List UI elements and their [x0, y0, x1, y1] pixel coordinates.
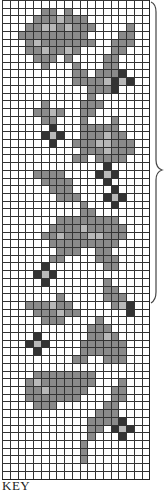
- grid-cell: [18, 23, 26, 31]
- grid-cell: [72, 332, 80, 340]
- grid-cell: [10, 394, 18, 402]
- grid-cell: [64, 8, 72, 16]
- grid-cell: [87, 224, 95, 232]
- grid-cell: [80, 455, 88, 463]
- grid-cell: [56, 425, 64, 433]
- grid-cell: [111, 178, 119, 186]
- grid-cell: [118, 409, 126, 417]
- grid-cell: [2, 262, 10, 270]
- grid-cell: [56, 23, 64, 31]
- grid-cell: [64, 401, 72, 409]
- grid-cell: [25, 108, 33, 116]
- grid-cell: [118, 100, 126, 108]
- grid-cell: [56, 39, 64, 47]
- grid-cell: [64, 463, 72, 471]
- grid-cell: [118, 239, 126, 247]
- grid-cell: [118, 301, 126, 309]
- grid-cell: [25, 262, 33, 270]
- grid-cell: [64, 216, 72, 224]
- grid-cell: [64, 324, 72, 332]
- grid-cell: [142, 15, 150, 23]
- grid-cell: [56, 131, 64, 139]
- grid-cell: [103, 347, 111, 355]
- grid-cell: [111, 100, 119, 108]
- grid-cell: [49, 131, 57, 139]
- grid-cell: [33, 278, 41, 286]
- grid-cell: [111, 108, 119, 116]
- grid-cell: [111, 162, 119, 170]
- grid-cell: [111, 378, 119, 386]
- grid-cell: [103, 401, 111, 409]
- grid-cell: [87, 0, 95, 8]
- grid-cell: [103, 417, 111, 425]
- grid-cell: [10, 178, 18, 186]
- grid-cell: [87, 355, 95, 363]
- grid-cell: [49, 15, 57, 23]
- grid-cell: [18, 355, 26, 363]
- grid-cell: [134, 301, 142, 309]
- grid-cell: [80, 116, 88, 124]
- grid-cell: [103, 432, 111, 440]
- grid-cell: [126, 216, 134, 224]
- grid-cell: [72, 201, 80, 209]
- grid-cell: [41, 471, 49, 479]
- grid-cell: [72, 471, 80, 479]
- grid-cell: [111, 23, 119, 31]
- grid-cell: [33, 224, 41, 232]
- grid-cell: [80, 39, 88, 47]
- grid-cell: [18, 270, 26, 278]
- grid-cell: [80, 216, 88, 224]
- grid-cell: [56, 239, 64, 247]
- grid-cell: [95, 455, 103, 463]
- grid-cell: [134, 46, 142, 54]
- grid-cell: [64, 193, 72, 201]
- grid-cell: [118, 262, 126, 270]
- grid-cell: [111, 471, 119, 479]
- grid-cell: [25, 324, 33, 332]
- grid-cell: [103, 15, 111, 23]
- grid-cell: [18, 216, 26, 224]
- grid-cell: [2, 363, 10, 371]
- grid-cell: [2, 247, 10, 255]
- grid-cell: [2, 309, 10, 317]
- grid-cell: [33, 247, 41, 255]
- grid-cell: [49, 124, 57, 132]
- grid-cell: [126, 417, 134, 425]
- grid-cell: [2, 93, 10, 101]
- grid-cell: [18, 432, 26, 440]
- grid-cell: [111, 232, 119, 240]
- grid-cell: [134, 255, 142, 263]
- grid-cell: [49, 93, 57, 101]
- grid-cell: [25, 154, 33, 162]
- grid-cell: [49, 8, 57, 16]
- grid-cell: [64, 201, 72, 209]
- grid-cell: [134, 201, 142, 209]
- grid-cell: [103, 201, 111, 209]
- grid-cell: [41, 355, 49, 363]
- grid-cell: [72, 455, 80, 463]
- grid-cell: [33, 255, 41, 263]
- grid-cell: [103, 278, 111, 286]
- grid-cell: [64, 31, 72, 39]
- grid-cell: [118, 363, 126, 371]
- grid-cell: [64, 270, 72, 278]
- grid-cell: [56, 0, 64, 8]
- grid-cell: [2, 355, 10, 363]
- grid-cell: [10, 39, 18, 47]
- grid-cell: [49, 39, 57, 47]
- grid-cell: [95, 425, 103, 433]
- grid-cell: [87, 31, 95, 39]
- bracket-brace-icon: [150, 0, 166, 305]
- grid-cell: [134, 116, 142, 124]
- grid-cell: [87, 239, 95, 247]
- grid-cell: [95, 286, 103, 294]
- grid-cell: [49, 471, 57, 479]
- grid-cell: [126, 371, 134, 379]
- grid-cell: [56, 147, 64, 155]
- grid-cell: [64, 170, 72, 178]
- grid-cell: [25, 425, 33, 433]
- grid-cell: [25, 0, 33, 8]
- grid-cell: [49, 69, 57, 77]
- grid-cell: [126, 208, 134, 216]
- grid-cell: [103, 69, 111, 77]
